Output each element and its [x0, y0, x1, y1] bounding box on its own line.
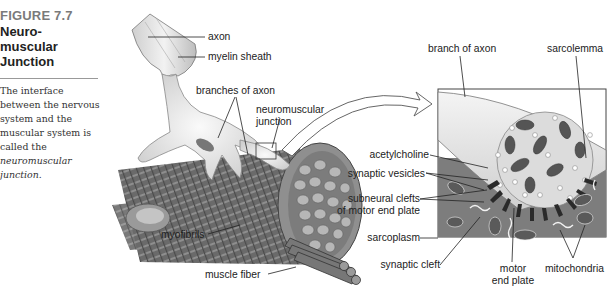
inset-enlargement — [438, 89, 606, 240]
label-motor-end-plate: motor end plate — [490, 263, 536, 287]
label-synaptic-cleft: synaptic cleft — [380, 259, 440, 271]
label-neuromuscular-junction: neuromuscular junction — [256, 104, 324, 128]
label-subneural-clefts: subneural clefts of motor end plate — [337, 193, 420, 217]
label-acetylcholine: acetylcholine — [369, 149, 429, 161]
label-line: subneural clefts — [337, 193, 420, 205]
label-line: neuromuscular — [256, 104, 324, 116]
label-muscle-fiber: muscle fiber — [205, 269, 261, 281]
neuromuscular-junction-illustration — [0, 0, 614, 291]
label-branch-of-axon: branch of axon — [428, 43, 496, 55]
label-branches-of-axon: branches of axon — [196, 85, 275, 97]
label-sarcolemma: sarcolemma — [547, 43, 603, 55]
label-myelin-sheath: myelin sheath — [208, 51, 272, 63]
label-line: of motor end plate — [337, 205, 420, 217]
label-synaptic-vesicles: synaptic vesicles — [348, 168, 425, 180]
label-line: end plate — [490, 275, 536, 287]
label-line: junction — [256, 116, 324, 128]
label-mitochondria: mitochondria — [545, 263, 604, 275]
label-sarcoplasm: sarcoplasm — [367, 232, 420, 244]
label-line: motor — [490, 263, 536, 275]
label-axon: axon — [208, 31, 230, 43]
label-myofibrils: myofibrils — [161, 229, 204, 241]
